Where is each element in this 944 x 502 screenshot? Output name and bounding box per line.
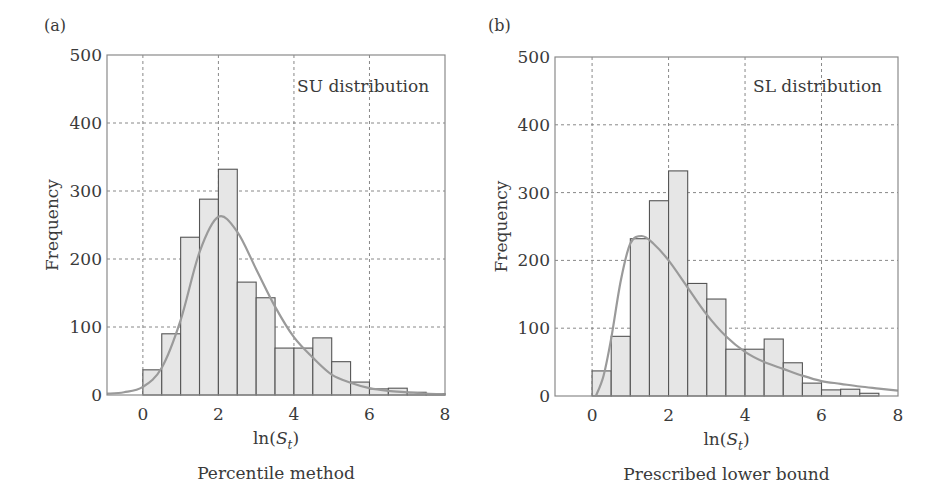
histogram-bar: [630, 239, 649, 396]
x-axis-label: ln(St): [253, 428, 299, 452]
panel-b-sl-distribution: (b)024680100200300400500SL distributionF…: [488, 16, 903, 484]
y-tick-label: 300: [70, 181, 102, 201]
plot-frame: [555, 57, 898, 396]
histogram-bar: [218, 169, 237, 395]
panel-caption: Percentile method: [197, 463, 355, 483]
x-tick-labels: 02468: [587, 405, 904, 425]
x-tick-label: 0: [587, 405, 598, 425]
histogram-bar: [649, 201, 668, 396]
y-axis-label: Frequency: [42, 179, 62, 271]
distribution-annotation: SU distribution: [297, 76, 429, 96]
x-tick-label: 4: [289, 404, 300, 424]
y-tick-label: 200: [70, 249, 102, 269]
distribution-annotation: SL distribution: [753, 76, 882, 96]
gridlines: [555, 57, 898, 396]
y-tick-label: 0: [539, 386, 550, 406]
y-tick-label: 100: [518, 318, 550, 338]
x-tick-label: 8: [893, 405, 904, 425]
gridlines: [107, 55, 445, 395]
x-tick-label: 0: [137, 404, 148, 424]
y-tick-label: 500: [518, 47, 550, 67]
figure: (a)024680100200300400500SU distributionF…: [0, 0, 944, 502]
x-tick-label: 2: [213, 404, 224, 424]
y-tick-label: 400: [518, 115, 550, 135]
y-tick-labels: 0100200300400500: [70, 45, 102, 405]
x-tick-labels: 02468: [137, 404, 450, 424]
x-tick-label: 8: [440, 404, 451, 424]
histogram-bars: [143, 169, 445, 395]
panel-caption: Prescribed lower bound: [623, 464, 829, 484]
panel-label: (b): [488, 16, 511, 35]
x-tick-label: 6: [816, 405, 827, 425]
histogram-bar: [256, 298, 275, 395]
panel-a-su-distribution: (a)024680100200300400500SU distributionF…: [42, 16, 450, 483]
histogram-bar: [726, 349, 745, 396]
histogram-bar: [783, 363, 802, 396]
y-tick-labels: 0100200300400500: [518, 47, 550, 406]
y-tick-label: 200: [518, 250, 550, 270]
x-tick-label: 2: [663, 405, 674, 425]
x-tick-label: 6: [364, 404, 375, 424]
histogram-bar: [237, 282, 256, 395]
histogram-bar: [707, 299, 726, 396]
histogram-bars: [592, 171, 879, 396]
plot-frame: [107, 55, 445, 395]
y-tick-label: 100: [70, 317, 102, 337]
y-tick-label: 0: [91, 385, 102, 405]
y-axis-label: Frequency: [491, 180, 511, 272]
y-tick-label: 300: [518, 183, 550, 203]
y-tick-label: 400: [70, 113, 102, 133]
x-axis-label: ln(St): [703, 429, 749, 453]
y-tick-label: 500: [70, 45, 102, 65]
histogram-bar: [745, 349, 764, 396]
x-tick-label: 4: [740, 405, 751, 425]
histogram-bar: [841, 389, 860, 396]
histogram-bar: [802, 383, 821, 396]
panel-label: (a): [44, 16, 66, 35]
histogram-bar: [611, 336, 630, 396]
histogram-bar: [275, 348, 294, 395]
histogram-bar: [822, 390, 841, 396]
